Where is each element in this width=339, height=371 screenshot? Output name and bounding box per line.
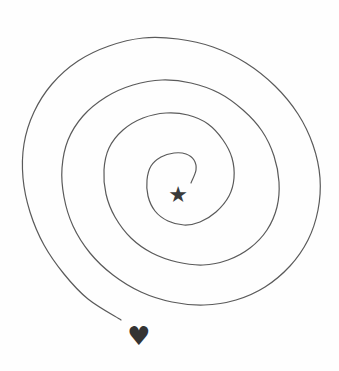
spiral-line [22,37,320,320]
spiral-drawing: ★ ♥ [0,0,339,371]
heart-icon: ♥ [127,321,150,351]
star-icon: ★ [168,182,188,207]
spiral-puzzle: ★ ♥ [0,0,339,371]
